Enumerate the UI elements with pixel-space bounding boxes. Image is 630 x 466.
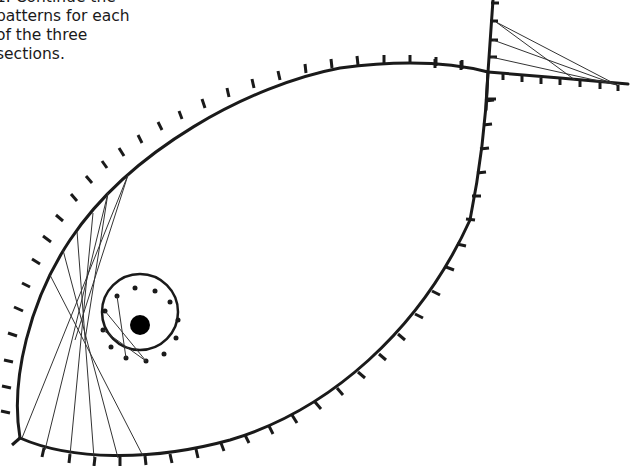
eye-ring <box>102 274 178 350</box>
eye-section <box>101 274 181 364</box>
tail-tick-marks <box>435 3 618 99</box>
eye-pupil <box>130 315 150 335</box>
upper-tick-marks <box>1 55 462 413</box>
tail-vertical-line <box>486 0 493 110</box>
tail-strings <box>491 22 617 85</box>
fish-diagram <box>0 0 630 466</box>
body-strings <box>22 175 143 458</box>
tail-horizontal-line <box>488 72 628 84</box>
worksheet: 1. Continue the patterns for each of the… <box>0 0 630 466</box>
